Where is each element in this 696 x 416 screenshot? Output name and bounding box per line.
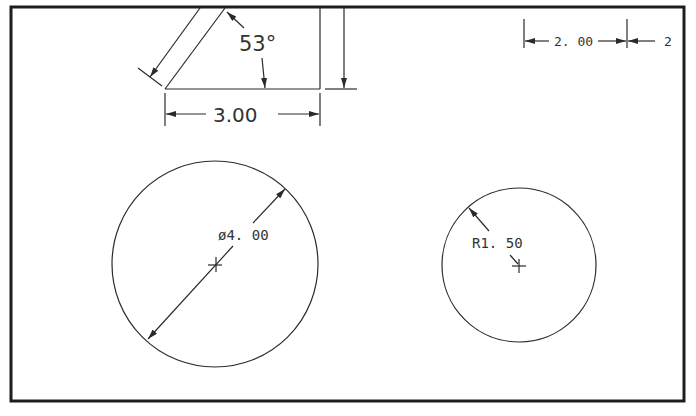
radius-label: R1. 50 (472, 235, 523, 251)
linear-dimension-label: 2. 00 (554, 34, 593, 49)
radius-leader (469, 208, 489, 231)
linear-dimension-label-next: 2 (664, 34, 672, 49)
drawing-frame (11, 7, 684, 401)
angle-label: 53° (239, 32, 276, 56)
aligned-dimension-line (150, 8, 200, 77)
aligned-extension-line (138, 68, 162, 86)
radius-leader-center (510, 255, 518, 264)
large-circle (112, 161, 318, 367)
large-circle-view (112, 161, 318, 367)
diameter-label: ø4. 00 (218, 227, 269, 243)
width-label: 3.00 (213, 103, 258, 127)
small-circle-view (442, 188, 596, 342)
angle-leader-bottom (262, 58, 265, 88)
diameter-dim-lower (148, 246, 233, 339)
angle-leader-top (227, 12, 244, 28)
triangle-hypotenuse (165, 8, 225, 89)
cad-drawing-canvas: 53° 3.00 2. 00 2 ø4. 00 R1. 50 (0, 0, 696, 416)
diameter-dim-upper (253, 189, 285, 223)
